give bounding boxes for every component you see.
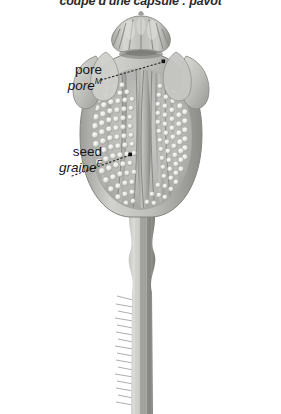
label-pore-french: poreM: [6, 77, 102, 93]
stem-hairs: [115, 296, 133, 405]
label-pore: pore poreM: [6, 62, 102, 93]
stigmatic-disc-group: [112, 11, 171, 52]
leader-dot-seed: [128, 153, 132, 157]
stigma-apex: [138, 11, 144, 16]
stem-vascular-strand: [135, 210, 151, 414]
label-seed-gender: F: [97, 158, 102, 168]
septum-center: [137, 66, 151, 212]
poppy-capsule-diagram: coupe d'une capsule : pavot: [0, 0, 281, 414]
label-pore-french-text: pore: [68, 78, 95, 93]
peduncle-group: [115, 205, 157, 414]
label-pore-english: pore: [6, 62, 102, 77]
pore-opening: [119, 49, 163, 59]
label-seed-english: seed: [6, 144, 102, 159]
leader-dot-pore: [162, 60, 166, 64]
label-seed: seed graineF: [6, 144, 102, 175]
label-seed-french: graineF: [6, 159, 102, 175]
label-seed-french-text: graine: [59, 160, 97, 175]
label-pore-gender: M: [95, 76, 102, 86]
